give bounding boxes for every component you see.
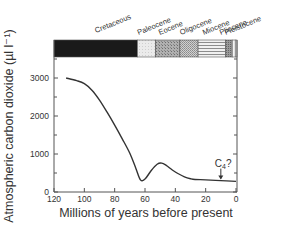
co2-chart: CretaceousPaleoceneEoceneOligoceneMiocen… bbox=[0, 0, 290, 238]
period-paleocene bbox=[137, 40, 155, 57]
x-tick-label: 20 bbox=[201, 194, 211, 204]
period-label: Pleistocene bbox=[223, 14, 262, 37]
y-axis: 0100020003000 bbox=[30, 59, 237, 197]
co2-curve bbox=[66, 78, 236, 181]
plot-frame bbox=[54, 40, 237, 192]
y-tick-label: 1000 bbox=[30, 149, 49, 159]
x-tick-label: 80 bbox=[110, 194, 120, 204]
x-tick-label: 120 bbox=[47, 194, 61, 204]
period-cretaceous bbox=[54, 40, 137, 57]
geologic-period-bar bbox=[54, 40, 237, 57]
x-tick-label: 40 bbox=[171, 194, 181, 204]
period-oligocene bbox=[180, 40, 198, 57]
x-tick-label: 0 bbox=[234, 194, 239, 204]
x-tick-label: 60 bbox=[140, 194, 150, 204]
x-axis-label: Millions of years before present bbox=[59, 206, 233, 220]
y-axis-label: Atmospheric carbon dioxide (µl l⁻¹) bbox=[2, 29, 16, 222]
y-tick-label: 3000 bbox=[30, 73, 49, 83]
x-tick-label: 100 bbox=[77, 194, 91, 204]
chart-canvas: CretaceousPaleoceneEoceneOligoceneMiocen… bbox=[0, 0, 290, 238]
period-label: Cretaceous bbox=[93, 12, 132, 35]
period-pliocene bbox=[225, 40, 232, 57]
annotation-label: C4? bbox=[215, 158, 232, 170]
x-axis: 120100806040200 bbox=[47, 188, 239, 204]
period-pleistocene bbox=[232, 40, 235, 57]
y-tick-label: 2000 bbox=[30, 111, 49, 121]
period-labels: CretaceousPaleoceneEoceneOligoceneMiocen… bbox=[93, 12, 262, 37]
period-miocene bbox=[198, 40, 225, 57]
period-eocene bbox=[156, 40, 180, 57]
c4-annotation: C4? bbox=[215, 158, 232, 180]
